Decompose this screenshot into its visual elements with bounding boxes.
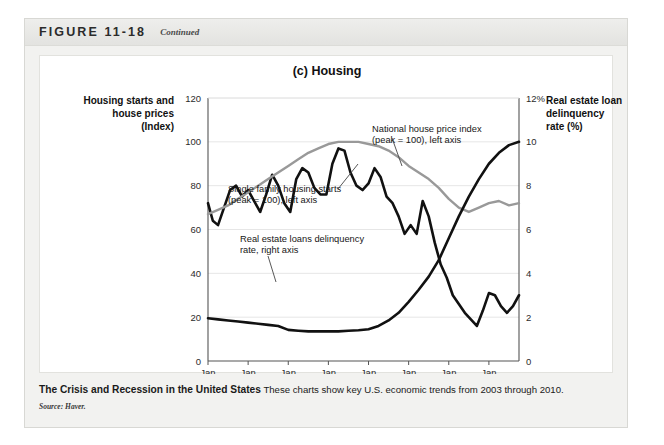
x-tick-label-month: Jan: [321, 367, 336, 374]
annotation-housing-starts-line1: Single family housing starts: [228, 184, 342, 194]
x-tick-label-month: Jan: [481, 367, 496, 374]
annotation-delinquency-line1: Real estate loans delinquency: [240, 234, 364, 244]
left-tick-label: 100: [185, 136, 201, 147]
annotation-house-price-line2: (peak = 100), left axis: [372, 135, 461, 145]
figure-continued-label: Continued: [160, 27, 199, 37]
x-tick-label-month: Jan: [441, 367, 456, 374]
annotation-delinquency-leader: [268, 256, 276, 282]
x-tick-label-month: Jan: [361, 367, 376, 374]
x-tick-label-month: Jan: [401, 367, 416, 374]
left-tick-label: 120: [185, 93, 201, 104]
right-tick-label: 10: [526, 136, 537, 147]
chart-panel: (c) Housing Housing starts and house pri…: [39, 55, 613, 373]
left-tick-label: 40: [190, 268, 201, 279]
annotation-delinquency-line2: rate, right axis: [240, 245, 299, 255]
right-axis-tick-labels: 024681012%: [526, 93, 546, 367]
right-tick-label: 6: [526, 224, 531, 235]
annotation-housing-starts-line2: (peak = 100), left axis: [228, 195, 317, 205]
annotation-house-price-line1: National house price index: [372, 124, 482, 134]
x-axis-tick-labels: Jan2003Jan2004Jan2005Jan2006Jan2007Jan20…: [197, 367, 499, 374]
figure-frame: FIGURE 11-18 Continued (c) Housing Housi…: [24, 18, 628, 428]
housing-line-chart: 020406080100120 024681012% Jan2003Jan200…: [40, 56, 614, 374]
left-tick-label: 80: [190, 180, 201, 191]
chart-annotations: National house price index(peak = 100), …: [228, 124, 482, 282]
figure-header: FIGURE 11-18 Continued: [25, 19, 627, 46]
figure-number: FIGURE 11-18: [39, 25, 146, 39]
left-tick-label: 60: [190, 224, 201, 235]
axes-group: [208, 98, 519, 365]
left-tick-label: 0: [196, 356, 201, 367]
x-tick-label-month: Jan: [281, 367, 296, 374]
caption-lead: The Crisis and Recession in the United S…: [39, 384, 261, 395]
x-tick-label-month: Jan: [200, 367, 215, 374]
left-axis-tick-labels: 020406080100120: [185, 93, 201, 367]
figure-caption: The Crisis and Recession in the United S…: [39, 383, 617, 396]
right-tick-label: 4: [526, 268, 531, 279]
left-tick-label: 20: [190, 312, 201, 323]
figure-page: FIGURE 11-18 Continued (c) Housing Housi…: [0, 0, 664, 445]
x-tick-label-month: Jan: [240, 367, 255, 374]
right-tick-label: 8: [526, 180, 531, 191]
right-tick-label: 0: [526, 356, 531, 367]
right-tick-label: 12%: [526, 93, 546, 104]
right-tick-label: 2: [526, 312, 531, 323]
caption-source: Source: Haver.: [39, 402, 86, 411]
caption-body: These charts show key U.S. economic tren…: [263, 384, 563, 395]
